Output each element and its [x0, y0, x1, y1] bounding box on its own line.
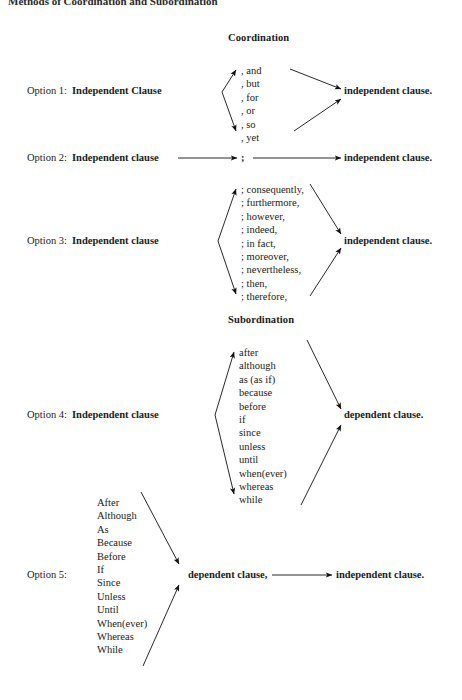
section-header-coordination: Coordination [228, 33, 289, 44]
connector-item: Unless [97, 590, 147, 603]
option-4-left-clause: Independent clause [72, 410, 159, 421]
option-1-label: Option 1: [27, 86, 67, 97]
option-4-right-clause: dependent clause. [344, 410, 423, 421]
arrow-opt1-down-left [222, 92, 236, 131]
arrow-opt1-up-left [222, 70, 236, 92]
option-4-label: Option 4: [27, 410, 67, 421]
arrow-layer [0, 0, 462, 700]
connector-item: if [239, 413, 287, 426]
connector-item: ; in fact, [241, 237, 304, 250]
option-5-middle-clause: dependent clause, [188, 570, 267, 581]
connector-item: since [239, 426, 287, 439]
arrow-opt1-down-right [294, 99, 341, 131]
connector-item: ; indeed, [241, 223, 304, 236]
connector-item: , but [241, 77, 261, 90]
option-2-label: Option 2: [27, 153, 67, 164]
connector-item: after [239, 346, 287, 359]
connector-item: before [239, 400, 287, 413]
connector-item: , yet [241, 131, 261, 144]
connector-item: although [239, 359, 287, 372]
connector-item: While [97, 643, 147, 656]
arrow-opt3-up-left [218, 189, 236, 241]
connector-item: until [239, 453, 287, 466]
connector-item: , and [241, 64, 261, 77]
connector-item: ; nevertheless, [241, 263, 304, 276]
option-1-left-clause: Independent Clause [72, 86, 162, 97]
connector-item: Although [97, 509, 147, 522]
arrow-opt3-up-right [310, 184, 341, 234]
connector-item: After [97, 496, 147, 509]
arrow-opt1-up-right [290, 69, 341, 89]
connector-item: while [239, 493, 287, 506]
connector-item: Because [97, 536, 147, 549]
option-2-connector: ; [241, 153, 245, 164]
connector-item: As [97, 523, 147, 536]
connector-item: If [97, 563, 147, 576]
arrow-opt4-down-right [301, 425, 341, 505]
option-1-connector-list: , and , but , for , or , so , yet [241, 64, 261, 144]
option-5-right-clause: independent clause. [336, 570, 424, 581]
connector-item: ; furthermore, [241, 196, 304, 209]
option-3-right-clause: independent clause. [344, 236, 432, 247]
arrow-opt4-up-right [307, 340, 341, 409]
connector-item: when(ever) [239, 467, 287, 480]
connector-item: , for [241, 91, 261, 104]
connector-item: ; however, [241, 210, 304, 223]
connector-item: unless [239, 440, 287, 453]
section-header-subordination: Subordination [228, 315, 294, 326]
page-title: Methods of Coordination and Subordinatio… [8, 0, 218, 7]
option-1-right-clause: independent clause. [344, 86, 432, 97]
option-4-connector-list: after although as (as if) because before… [239, 346, 287, 507]
option-5-connector-list: After Although As Because Before If Sinc… [97, 496, 147, 657]
option-5-label: Option 5: [27, 570, 67, 581]
connector-item: , or [241, 104, 261, 117]
connector-item: whereas [239, 480, 287, 493]
connector-item: Before [97, 550, 147, 563]
arrow-opt5-lower-in [143, 585, 179, 666]
connector-item: Until [97, 603, 147, 616]
arrow-opt4-down-left [215, 415, 234, 494]
arrow-opt3-down-left [218, 241, 236, 294]
connector-item: ; moreover, [241, 250, 304, 263]
option-3-connector-list: ; consequently, ; furthermore, ; however… [241, 183, 304, 304]
arrow-opt4-up-left [215, 352, 234, 415]
option-2-left-clause: Independent clause [72, 153, 159, 164]
connector-item: because [239, 386, 287, 399]
connector-item: , so [241, 118, 261, 131]
connector-item: ; then, [241, 277, 304, 290]
option-3-left-clause: Independent clause [72, 236, 159, 247]
option-2-right-clause: independent clause. [344, 153, 432, 164]
connector-item: as (as if) [239, 373, 287, 386]
connector-item: Since [97, 576, 147, 589]
diagram-page: Methods of Coordination and Subordinatio… [0, 0, 462, 700]
connector-item: ; therefore, [241, 290, 304, 303]
connector-item: Whereas [97, 630, 147, 643]
arrow-opt3-down-right [310, 248, 341, 296]
connector-item: When(ever) [97, 617, 147, 630]
connector-item: ; consequently, [241, 183, 304, 196]
option-3-label: Option 3: [27, 236, 67, 247]
